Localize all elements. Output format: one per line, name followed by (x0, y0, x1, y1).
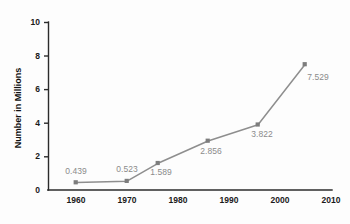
x-tick-label-1970: 1970 (118, 195, 137, 205)
y-tick-label-6: 6 (35, 84, 40, 94)
data-point-2000[interactable] (256, 122, 260, 126)
data-label-2000: 3.822 (251, 129, 273, 139)
x-tick-label-1980: 1980 (169, 195, 188, 205)
y-tick-label-8: 8 (35, 51, 40, 61)
x-tick-label-1960: 1960 (67, 195, 86, 205)
data-point-1970[interactable] (125, 179, 129, 183)
data-label-1990: 2.856 (200, 146, 222, 156)
data-point-2010[interactable] (303, 62, 307, 66)
line-chart: 10 8 6 4 2 0 Number in Millions 1960 197… (0, 0, 350, 224)
data-point-1960[interactable] (74, 180, 78, 184)
y-tick-label-0: 0 (35, 185, 40, 195)
x-tick-label-1990: 1990 (220, 195, 239, 205)
x-tick-label-2010: 2010 (322, 195, 341, 205)
data-label-1960: 0.439 (65, 166, 87, 176)
y-axis-title: Number in Millions (13, 68, 23, 149)
data-label-2010: 7.529 (307, 72, 329, 82)
y-tick-label-10: 10 (31, 17, 41, 27)
series-line-number-in-millions (76, 65, 305, 183)
y-tick-label-2: 2 (35, 151, 40, 161)
chart-canvas: 10 8 6 4 2 0 Number in Millions 1960 197… (0, 0, 350, 224)
data-point-1980[interactable] (156, 161, 160, 165)
y-tick-label-4: 4 (35, 118, 40, 128)
data-point-1990[interactable] (206, 139, 210, 143)
data-label-1970: 0.523 (116, 164, 138, 174)
data-label-1980: 1.589 (150, 167, 172, 177)
x-tick-label-2000: 2000 (271, 195, 290, 205)
